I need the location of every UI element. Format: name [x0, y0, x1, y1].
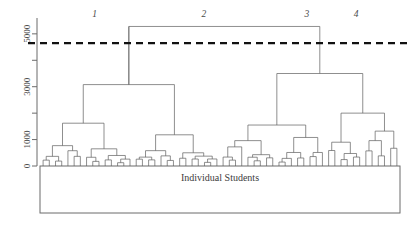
dendrogram-link	[344, 153, 356, 159]
dendrogram-link	[313, 152, 322, 166]
dendrogram-link	[223, 157, 232, 166]
dendrogram-link	[91, 149, 117, 157]
dendrogram-link	[68, 151, 77, 166]
dendrogram-link	[83, 85, 174, 135]
dendrogram-link	[56, 161, 62, 166]
dendrogram-link	[248, 125, 306, 141]
dendrogram-link	[254, 161, 260, 166]
dendrogram-link	[149, 160, 155, 166]
dendrogram-link	[161, 156, 170, 166]
dendrogram-link	[43, 160, 49, 166]
dendrogram-link	[192, 159, 198, 166]
dendrogram-link	[136, 159, 142, 166]
y-axis-group: 0100030005000	[22, 18, 37, 168]
dendrogram-link	[277, 74, 363, 126]
dendrogram-link	[267, 158, 273, 166]
y-axis-tick-label: 1000	[22, 130, 32, 149]
dendrogram-link	[341, 160, 347, 166]
dendrogram-link	[204, 162, 210, 166]
dendrogram-link	[167, 160, 173, 166]
dendrogram-link	[93, 161, 99, 166]
dendrogram-figure: 0100030005000 1234Individual Students	[0, 0, 410, 228]
dendrogram-link	[391, 148, 397, 166]
dendrogram-link	[294, 137, 318, 152]
cluster-label-2: 2	[201, 9, 206, 19]
dendrogram-link	[63, 123, 105, 149]
dendrogram-link	[279, 162, 285, 166]
dendrogram-link	[329, 151, 335, 167]
dendrogram-link	[378, 156, 384, 166]
cluster-label-1: 1	[92, 9, 97, 19]
dendrogram-link	[310, 157, 316, 166]
cluster-label-3: 3	[303, 9, 309, 19]
y-axis-tick-label: 5000	[22, 24, 32, 43]
dendrogram-link	[248, 157, 257, 166]
dendrogram-link	[195, 156, 212, 159]
dendrogram-link	[298, 158, 304, 166]
dendrogram-link	[341, 113, 384, 142]
dendrogram-link	[228, 147, 242, 166]
dendrogram-link	[287, 152, 301, 158]
dendrogram-link	[156, 135, 194, 153]
y-axis-tick-label: 3000	[22, 77, 32, 96]
dendrogram-link	[369, 141, 381, 156]
dendrogram-links-group	[43, 26, 397, 166]
dendrogram-link	[74, 156, 80, 166]
dendrogram-link	[353, 157, 359, 166]
dendrogram-link	[180, 158, 186, 166]
cluster-label-4: 4	[354, 9, 359, 19]
x-axis-title: Individual Students	[181, 172, 259, 183]
dendrogram-link	[375, 131, 394, 148]
dendrogram-link	[105, 160, 111, 166]
dendrogram-link	[366, 151, 372, 166]
dendrogram-link	[183, 153, 204, 158]
dendrogram-canvas: 0100030005000 1234Individual Students	[0, 0, 410, 228]
dendrogram-link	[229, 160, 235, 166]
dendrogram-link	[235, 141, 261, 155]
dendrogram-link	[129, 26, 320, 84]
y-axis-tick-label: 0	[22, 163, 32, 168]
